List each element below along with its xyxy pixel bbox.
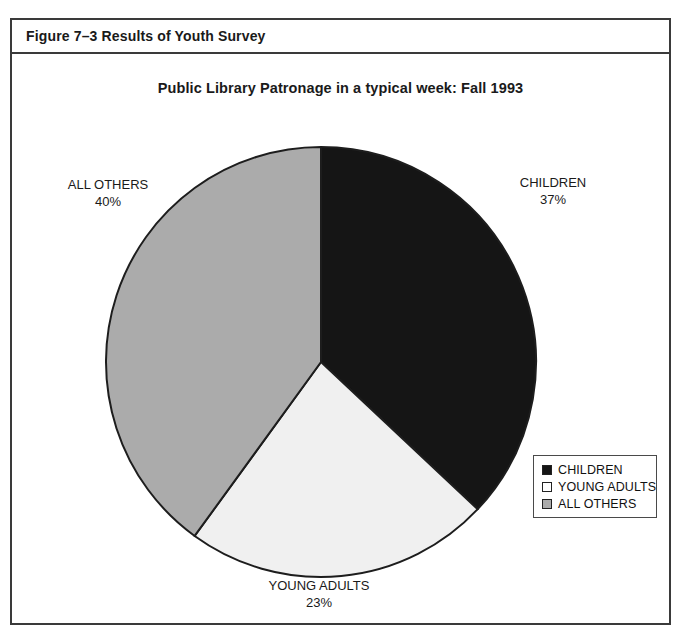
legend-item-children[interactable]: CHILDREN [542, 461, 649, 478]
slice-label-children-name: CHILDREN [520, 175, 586, 190]
pie-chart [12, 56, 669, 623]
legend-label-young-adults: YOUNG ADULTS [558, 480, 656, 494]
slice-label-all-others-name: ALL OTHERS [68, 177, 148, 192]
legend-swatch-icon [542, 482, 552, 492]
legend-label-all-others: ALL OTHERS [558, 497, 636, 511]
pie-chart-svg [12, 56, 669, 623]
slice-label-all-others: ALL OTHERS 40% [38, 176, 178, 210]
slice-label-young-adults: YOUNG ADULTS 23% [224, 577, 414, 611]
figure-caption-bar: Figure 7–3 Results of Youth Survey [10, 18, 671, 54]
figure-caption-text: Figure 7–3 Results of Youth Survey [12, 28, 266, 44]
chart-area: Public Library Patronage in a typical we… [12, 56, 669, 623]
slice-label-young-adults-percent: 23% [224, 594, 414, 611]
legend-item-young-adults[interactable]: YOUNG ADULTS [542, 478, 649, 495]
slice-label-children-percent: 37% [488, 191, 618, 208]
slice-label-young-adults-name: YOUNG ADULTS [269, 578, 370, 593]
chart-legend: CHILDREN YOUNG ADULTS ALL OTHERS [533, 455, 657, 518]
legend-swatch-icon [542, 499, 552, 509]
legend-label-children: CHILDREN [558, 463, 623, 477]
slice-label-children: CHILDREN 37% [488, 174, 618, 208]
figure-page: Figure 7–3 Results of Youth Survey Publi… [0, 0, 683, 642]
legend-swatch-icon [542, 465, 552, 475]
legend-item-all-others[interactable]: ALL OTHERS [542, 495, 649, 512]
slice-label-all-others-percent: 40% [38, 193, 178, 210]
pie-slices [106, 147, 536, 577]
